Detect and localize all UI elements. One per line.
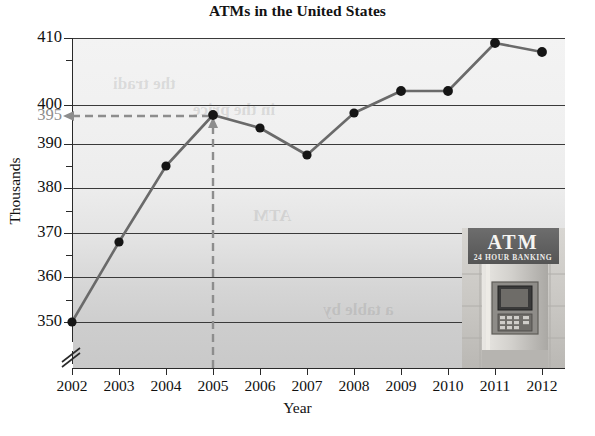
atm-photograph: ATM 24 HOUR BANKING [462,228,565,368]
xlabel-2011: 2011 [468,377,522,395]
xtick-2002 [72,368,73,375]
xtick-2010 [448,368,449,375]
y-axis-title: Thousands [6,126,24,256]
ytick-380 [64,188,72,189]
ytick-365 [66,255,72,256]
ytick-405 [66,60,72,61]
ylabel-410: 410 [37,29,62,46]
ghost-text-line3: ATM [253,206,291,226]
gridline-400 [73,105,565,106]
xlabel-2004: 2004 [139,377,193,395]
ylabel-360: 360 [37,268,62,285]
chart-title: ATMs in the United States [0,2,595,20]
xlabel-2008: 2008 [327,377,381,395]
atm-sign-subtitle: 24 HOUR BANKING [474,253,553,262]
gridline-410 [73,38,565,39]
xlabel-2003: 2003 [92,377,146,395]
atm-sign-title: ATM [487,231,538,253]
ytick-355 [66,300,72,301]
ghost-text-line2: in the price [193,100,275,120]
xtick-2008 [354,368,355,375]
gridline-390 [73,144,565,145]
x-axis-line [72,368,565,369]
xlabel-2002: 2002 [45,377,99,395]
xtick-2004 [166,368,167,375]
xlabel-2005: 2005 [186,377,240,395]
ytick-385 [66,166,72,167]
ytick-370 [64,233,72,234]
xlabel-2006: 2006 [233,377,287,395]
xtick-2007 [307,368,308,375]
atm-screen-glow [501,289,528,307]
ytick-360 [64,277,72,278]
xtick-2005 [213,368,214,375]
x-axis-title: Year [0,399,595,417]
ghost-text-line1: the tradi [113,74,176,94]
xlabel-2010: 2010 [421,377,475,395]
xtick-2006 [260,368,261,375]
ylabel-380: 380 [37,179,62,196]
ylabel-370: 370 [37,224,62,241]
ghost-text-line4: a table by [323,300,394,320]
gridline-380 [73,188,565,189]
ytick-375 [66,211,72,212]
xtick-2009 [401,368,402,375]
atm-photo-svg: ATM 24 HOUR BANKING [462,228,565,368]
ytick-350 [64,322,72,323]
ytick-410 [64,38,72,39]
xtick-2012 [542,368,543,375]
atm-line-chart-figure: ATMs in the United States the tradi in t… [0,0,595,436]
xlabel-2007: 2007 [280,377,334,395]
ylabel-390: 390 [37,135,62,152]
xtick-2003 [119,368,120,375]
ylabel-350: 350 [37,313,62,330]
ytick-400 [64,105,72,106]
ytick-390 [64,144,72,145]
xlabel-2012: 2012 [515,377,569,395]
xtick-2011 [495,368,496,375]
atm-kiosk-base [482,350,548,368]
ylabel-395-highlight: 395 [37,107,62,124]
xlabel-2009: 2009 [374,377,428,395]
